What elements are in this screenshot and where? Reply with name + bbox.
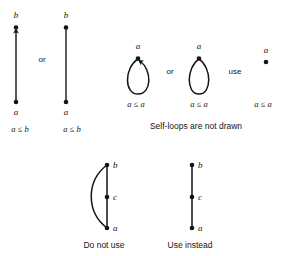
loop-with-arrow-relation-label: a ≤ a xyxy=(127,99,144,109)
node-a-dot xyxy=(264,60,269,65)
do-not-use-caption: Do not use xyxy=(83,240,124,250)
diagram-canvas xyxy=(0,0,289,256)
node-a-dot xyxy=(105,226,110,231)
point-only-relation-label: a ≤ a xyxy=(254,99,271,109)
node-a-dot xyxy=(136,56,141,61)
diagram-reduced-edge xyxy=(190,163,195,231)
arrow-version-top-node-label: b xyxy=(14,10,19,20)
self-loops-caption: Self-loops are not drawn xyxy=(150,121,242,131)
node-b-dot xyxy=(190,163,195,168)
transitive-arc-a-to-b xyxy=(91,165,107,228)
connector-or-loops: or xyxy=(166,67,173,76)
diagram-redundant-edge xyxy=(91,163,109,231)
loop-plain-relation-label: a ≤ a xyxy=(190,99,207,109)
diagram-loop-plain xyxy=(189,56,209,94)
connector-or-top: or xyxy=(38,55,45,64)
diagram-point-only xyxy=(264,60,269,65)
arrow-version-relation-label: a ≤ b xyxy=(11,124,28,134)
diagram-loop-with-arrow xyxy=(128,56,149,94)
point-only-node-label: a xyxy=(264,45,269,55)
node-b-dot xyxy=(105,163,110,168)
loop-with-arrow-node-label: a xyxy=(136,41,141,51)
redundant-edge-bottom-node-label: a xyxy=(113,223,118,233)
node-a-dot xyxy=(64,100,69,105)
redundant-edge-top-node-label: b xyxy=(113,160,118,170)
plain-version-bottom-node-label: a xyxy=(64,107,69,117)
node-a-dot xyxy=(190,226,195,231)
node-b-dot xyxy=(14,25,19,30)
reduced-edge-bottom-node-label: a xyxy=(198,223,203,233)
reduced-edge-middle-node-label: c xyxy=(198,192,202,202)
node-b-dot xyxy=(64,25,69,30)
diagram-plain-version xyxy=(64,25,69,104)
connector-use: use xyxy=(229,67,242,76)
self-loop-path xyxy=(128,59,149,94)
node-a-dot xyxy=(14,100,19,105)
reduced-edge-top-node-label: b xyxy=(198,160,203,170)
arrow-version-bottom-node-label: a xyxy=(14,107,19,117)
use-instead-caption: Use instead xyxy=(168,240,213,250)
diagram-arrow-version xyxy=(14,25,19,104)
redundant-edge-middle-node-label: c xyxy=(113,192,117,202)
node-c-dot xyxy=(190,195,195,200)
loop-plain-node-label: a xyxy=(197,41,202,51)
self-loop-path xyxy=(189,59,209,94)
node-a-dot xyxy=(197,56,202,61)
plain-version-relation-label: a ≤ b xyxy=(63,124,80,134)
plain-version-top-node-label: b xyxy=(64,10,69,20)
node-c-dot xyxy=(105,195,110,200)
